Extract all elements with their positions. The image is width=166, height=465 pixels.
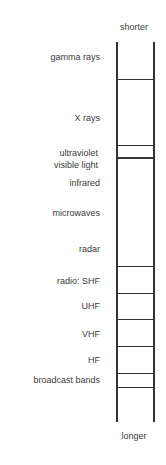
label-microwaves: microwaves <box>52 208 100 219</box>
label-gamma-rays: gamma rays <box>50 52 100 63</box>
divider-broadcast-end <box>116 387 154 388</box>
divider-vhf-hf <box>116 346 154 347</box>
divider-visible-light <box>116 157 154 159</box>
divider-xray-ultraviolet <box>116 145 154 146</box>
divider-shf-uhf <box>116 293 154 294</box>
left-rail <box>116 42 118 422</box>
bottom-label-longer: longer <box>104 431 164 441</box>
top-label-shorter: shorter <box>104 22 164 32</box>
label-visible-light: visible light <box>54 160 98 171</box>
label-radio-shf: radio: SHF <box>57 276 100 287</box>
label-vhf: VHF <box>82 329 100 340</box>
divider-radar-shf <box>116 266 154 267</box>
label-infrared: infrared <box>69 178 100 189</box>
label-radar: radar <box>79 244 100 255</box>
label-hf: HF <box>88 355 100 366</box>
label-uhf: UHF <box>82 301 101 312</box>
label-x-rays: X rays <box>74 113 100 124</box>
divider-hf-broadcast <box>116 373 154 374</box>
divider-gamma-xray <box>116 79 154 80</box>
right-rail <box>153 42 155 422</box>
divider-uhf-vhf <box>116 319 154 320</box>
label-broadcast-bands: broadcast bands <box>33 375 100 386</box>
label-ultraviolet: ultraviolet <box>59 148 98 159</box>
